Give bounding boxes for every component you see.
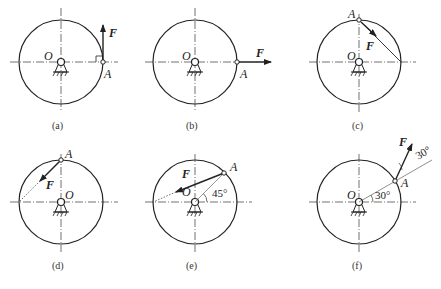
point-a-marker: [222, 171, 226, 175]
panel-caption: (a): [52, 120, 63, 132]
point-label: A: [229, 160, 238, 174]
panel-f: A F O 30° 30° (f): [309, 135, 433, 272]
angle-arc: [204, 194, 208, 203]
point-a-marker: [101, 60, 105, 64]
force-label: F: [45, 178, 54, 192]
center-label: O: [347, 49, 356, 63]
force-label: F: [255, 46, 264, 60]
center-label: O: [347, 188, 356, 202]
point-a-marker: [393, 179, 397, 183]
force-label: F: [108, 26, 117, 40]
force-label: F: [365, 39, 374, 53]
panel-caption: (f): [352, 260, 362, 272]
point-a-marker: [59, 158, 63, 162]
angle-label-2: 30°: [413, 143, 432, 161]
center-label: O: [182, 185, 191, 199]
panel-caption: (b): [186, 120, 198, 132]
panel-e: A F O 45° (e): [145, 154, 252, 272]
force-label: F: [181, 167, 190, 181]
panel-c: A F O (c): [309, 7, 416, 132]
line-of-action-dotted: [153, 192, 176, 202]
panel-d: A F O (d): [10, 147, 118, 272]
point-a-marker: [357, 18, 361, 22]
point-label: A: [239, 67, 248, 81]
panel-b: O A F (b): [145, 8, 271, 132]
force-label: F: [398, 135, 407, 149]
line-of-action-dotted: [19, 181, 40, 202]
center-label: O: [182, 49, 191, 63]
angle-arc-1: [371, 195, 373, 202]
panel-caption: (d): [52, 260, 64, 272]
force-diagram-figure: O A F (a) O A F (b) A F O (c): [0, 0, 441, 289]
point-label: A: [64, 147, 73, 161]
center-label: O: [65, 188, 74, 202]
panel-a: O A F (a): [10, 8, 118, 132]
angle-label-1: 30°: [375, 189, 390, 201]
force-arrow: [361, 22, 376, 36]
panel-caption: (e): [186, 260, 197, 272]
point-a-marker: [235, 60, 239, 64]
panel-caption: (c): [352, 120, 363, 132]
point-label: A: [103, 67, 112, 81]
center-label: O: [44, 49, 53, 63]
point-label: A: [347, 7, 356, 21]
angle-label: 45°: [212, 187, 227, 199]
point-label: A: [400, 176, 409, 190]
